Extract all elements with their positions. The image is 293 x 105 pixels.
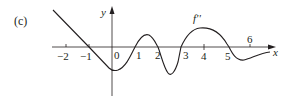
- tick-label-0: 0: [114, 50, 120, 61]
- tick-label-5: 5: [225, 51, 231, 62]
- curve-label: f'': [193, 13, 201, 24]
- panel-label: (c): [14, 15, 27, 27]
- f-double-prime-curve: [53, 10, 270, 74]
- tick-label-1: 1: [136, 50, 142, 61]
- graph-canvas: [0, 0, 293, 105]
- tick-label-3: 3: [183, 50, 189, 61]
- x-axis-label: x: [273, 47, 278, 58]
- tick-label-neg1: −1: [80, 51, 92, 62]
- tick-label-neg2: −2: [57, 51, 69, 62]
- y-axis-arrow-icon: [110, 6, 115, 14]
- tick-label-4: 4: [201, 51, 207, 62]
- graph-figure: (c) y x f'' −2 −1 0 1 2 3 4 5 6: [0, 0, 293, 105]
- tick-label-6: 6: [247, 34, 253, 45]
- y-axis-label: y: [101, 7, 106, 18]
- tick-label-2: 2: [155, 50, 161, 61]
